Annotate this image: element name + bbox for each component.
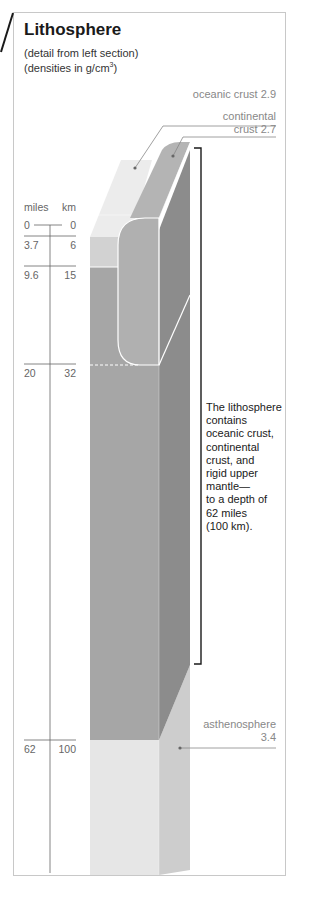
- scale-tick-km-2: 15: [56, 269, 76, 281]
- scale-tick-miles-4: 62: [24, 743, 36, 755]
- scale-tick-miles-1: 3.7: [24, 239, 39, 251]
- scale-tick-km-1: 6: [60, 239, 76, 251]
- asthenosphere-label: asthenosphere 3.4: [190, 718, 276, 744]
- scale-tick-miles-2: 9.6: [24, 269, 39, 281]
- scale-tick-miles-3: 20: [24, 367, 36, 379]
- scale-tick-km-4: 100: [52, 743, 76, 755]
- lithosphere-bracket: [194, 148, 201, 664]
- continental-crust-front-face: [118, 218, 159, 365]
- asthenosphere-front-face: [90, 740, 159, 875]
- mantle-side-face: [159, 150, 190, 740]
- scale-tick-miles-0: 0: [24, 219, 30, 231]
- scale-tick-km-3: 32: [56, 367, 76, 379]
- oceanic-crust-label: oceanic crust 2.9: [180, 88, 276, 101]
- lithosphere-note: The lithosphere contains oceanic crust, …: [206, 401, 296, 533]
- continental-crust-label: continental crust 2.7: [200, 110, 276, 136]
- scale-tick-km-0: 0: [64, 219, 76, 231]
- scale-unit-km: km: [62, 201, 76, 213]
- scale-unit-miles: miles: [24, 201, 49, 213]
